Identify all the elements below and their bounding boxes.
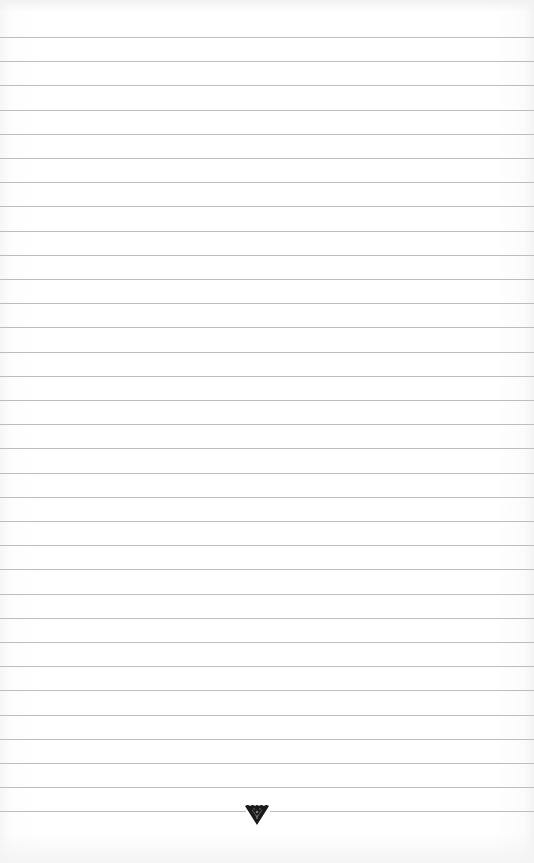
ruled-line	[270, 811, 534, 812]
ruled-line	[0, 521, 534, 522]
notebook-page	[0, 0, 534, 863]
ruled-line	[0, 715, 534, 716]
ruled-line	[0, 642, 534, 643]
ruled-line	[0, 85, 534, 86]
ruled-line	[0, 110, 534, 111]
ruled-line	[0, 255, 534, 256]
ruled-line	[0, 134, 534, 135]
ruled-line	[0, 618, 534, 619]
ruled-line	[0, 182, 534, 183]
ruled-line	[0, 279, 534, 280]
inverted-triangle-ornament-icon	[244, 804, 270, 826]
ruled-line	[0, 787, 534, 788]
ruled-line	[0, 61, 534, 62]
ruled-line	[0, 400, 534, 401]
ruled-line	[0, 206, 534, 207]
ruled-line	[0, 158, 534, 159]
page-top-shadow	[0, 0, 534, 12]
ruled-line	[0, 376, 534, 377]
ruled-line	[0, 811, 246, 812]
ruled-line	[0, 231, 534, 232]
ruled-line	[0, 763, 534, 764]
ruled-line	[0, 666, 534, 667]
ruled-line	[0, 594, 534, 595]
ruled-line	[0, 37, 534, 38]
ruled-line	[0, 327, 534, 328]
ruled-line	[0, 545, 534, 546]
ruled-line	[0, 497, 534, 498]
ruled-line	[0, 569, 534, 570]
ruled-line	[0, 424, 534, 425]
page-bottom-shadow	[0, 833, 534, 863]
ruled-line	[0, 448, 534, 449]
ruled-line	[0, 473, 534, 474]
ruled-line	[0, 352, 534, 353]
ruled-line	[0, 303, 534, 304]
ruled-line	[0, 739, 534, 740]
ruled-line	[0, 690, 534, 691]
